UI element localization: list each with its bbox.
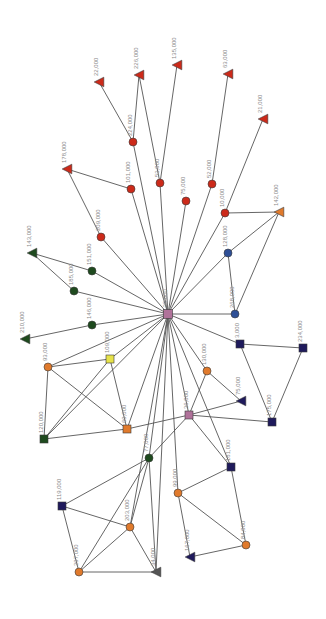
graph-node-triangle-icon[interactable]	[223, 69, 233, 79]
graph-edge	[168, 213, 225, 314]
graph-edge	[25, 325, 92, 339]
graph-edge	[67, 169, 131, 189]
graph-node-square-icon[interactable]	[185, 411, 193, 419]
graph-edge	[127, 415, 189, 429]
graph-node-circle-icon[interactable]	[129, 138, 137, 146]
node-label: 181,000	[225, 439, 231, 461]
graph-edge	[79, 458, 149, 572]
graph-node-triangle-icon[interactable]	[274, 207, 284, 217]
graph-edge	[235, 212, 279, 314]
graph-node-square-icon[interactable]	[236, 340, 244, 348]
graph-node-circle-icon[interactable]	[44, 363, 52, 371]
graph-node-square-icon[interactable]	[227, 463, 235, 471]
graph-edge	[149, 415, 189, 458]
graph-node-square-icon[interactable]	[106, 355, 114, 363]
node-label: 10,000	[219, 188, 225, 207]
node-label: 185,000	[68, 263, 74, 285]
graph-node-triangle-icon[interactable]	[20, 334, 30, 344]
graph-node-circle-icon[interactable]	[127, 185, 135, 193]
node-label: 120,000	[38, 411, 44, 433]
node-label: 226,000	[133, 47, 139, 69]
graph-node-circle-icon[interactable]	[208, 180, 216, 188]
graph-edge	[101, 237, 168, 314]
graph-edge	[212, 74, 228, 184]
graph-node-square-icon[interactable]	[299, 344, 307, 352]
graph-edge	[168, 253, 228, 314]
graph-node-circle-icon[interactable]	[182, 197, 190, 205]
graph-node-circle-icon[interactable]	[75, 568, 83, 576]
graph-edge	[168, 201, 186, 314]
graph-edge	[168, 184, 212, 314]
graph-node-circle-icon[interactable]	[221, 209, 229, 217]
node-label: 63,000	[222, 49, 228, 68]
node-label: 101,000	[125, 161, 131, 183]
graph-node-square-icon[interactable]	[58, 502, 66, 510]
labels-layer: 33,00022,000226,000135,00063,00021,00017…	[19, 37, 303, 566]
graph-edge	[44, 367, 48, 439]
graph-node-triangle-icon[interactable]	[27, 248, 37, 258]
graph-node-triangle-icon[interactable]	[185, 552, 195, 562]
node-label: 34,000	[150, 547, 156, 566]
graph-node-circle-icon[interactable]	[156, 179, 164, 187]
node-label: 84,000	[240, 520, 246, 539]
node-label: 130,000	[201, 343, 207, 365]
graph-node-circle-icon[interactable]	[224, 249, 232, 257]
graph-node-circle-icon[interactable]	[242, 541, 250, 549]
graph-node-circle-icon[interactable]	[88, 267, 96, 275]
graph-edge	[130, 458, 149, 527]
graph-node-circle-icon[interactable]	[203, 367, 211, 375]
graph-edge	[189, 401, 241, 415]
node-label: 69,000	[121, 404, 127, 423]
node-label: 203,000	[124, 499, 130, 521]
graph-node-triangle-icon[interactable]	[62, 164, 72, 174]
node-label: 178,000	[61, 141, 67, 163]
graph-node-circle-icon[interactable]	[231, 310, 239, 318]
node-label: 77,000	[143, 433, 149, 452]
graph-edge	[44, 359, 110, 439]
graph-node-triangle-icon[interactable]	[258, 114, 268, 124]
graph-edge	[178, 467, 231, 493]
graph-edge	[240, 344, 303, 348]
graph-node-circle-icon[interactable]	[145, 454, 153, 462]
graph-node-square-icon[interactable]	[40, 435, 48, 443]
graph-node-circle-icon[interactable]	[70, 287, 78, 295]
graph-edge	[160, 65, 177, 183]
node-label: 119,000	[56, 478, 62, 500]
nodes-layer	[20, 60, 307, 577]
node-label: 210,000	[19, 311, 25, 333]
graph-edge	[127, 314, 168, 429]
graph-node-circle-icon[interactable]	[97, 233, 105, 241]
node-label: 21,000	[257, 94, 263, 113]
node-label: 75,000	[235, 376, 241, 395]
graph-node-circle-icon[interactable]	[126, 523, 134, 531]
node-label: 128,000	[222, 225, 228, 247]
node-label: 109,000	[104, 331, 110, 353]
node-label: 167,000	[184, 529, 190, 551]
node-label: 22,000	[93, 57, 99, 76]
node-label: 135,000	[171, 37, 177, 59]
graph-edge	[225, 119, 263, 213]
graph-edge	[62, 458, 149, 506]
node-label: 93,000	[42, 342, 48, 361]
graph-edge	[44, 429, 127, 439]
graph-edge	[133, 75, 139, 142]
node-label: 75,000	[180, 176, 186, 195]
graph-node-triangle-icon[interactable]	[94, 77, 104, 87]
graph-edge	[272, 348, 303, 422]
node-label: 234,000	[297, 320, 303, 342]
node-label: 297,000	[73, 544, 79, 566]
graph-edge	[79, 527, 130, 572]
graph-node-square-icon[interactable]	[123, 425, 131, 433]
graph-node-square-icon[interactable]	[268, 418, 276, 426]
graph-edge	[189, 371, 207, 415]
node-label: 268,000	[229, 286, 235, 308]
graph-node-triangle-icon[interactable]	[172, 60, 182, 70]
graph-edge	[225, 212, 279, 213]
graph-edge	[62, 506, 130, 527]
node-label: 175,000	[266, 394, 272, 416]
graph-node-square-icon[interactable]	[164, 310, 173, 319]
graph-edge	[92, 271, 168, 314]
node-label: 146,000	[86, 297, 92, 319]
graph-node-circle-icon[interactable]	[88, 321, 96, 329]
graph-node-circle-icon[interactable]	[174, 489, 182, 497]
